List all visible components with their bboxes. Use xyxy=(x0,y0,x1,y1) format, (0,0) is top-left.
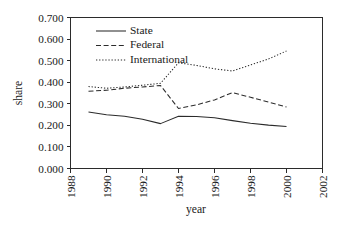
x-tick-label: 2002 xyxy=(317,176,329,198)
chart-figure: 0.0000.1000.2000.3000.4000.5000.6000.700… xyxy=(0,0,353,226)
x-tick-label: 1994 xyxy=(173,175,185,198)
y-tick-label: 0.000 xyxy=(38,163,64,175)
legend-label-federal: Federal xyxy=(130,38,164,50)
plot-frame xyxy=(71,18,323,169)
chart-legend: StateFederalInternational xyxy=(96,24,188,65)
x-tick-label: 1988 xyxy=(65,175,77,198)
y-tick-label: 0.600 xyxy=(38,33,64,45)
legend-label-state: State xyxy=(130,24,153,36)
series-line-state xyxy=(89,112,287,126)
y-tick-label: 0.700 xyxy=(38,12,64,24)
y-tick-label: 0.400 xyxy=(38,76,64,88)
y-tick-label: 0.100 xyxy=(38,141,64,153)
y-tick-label: 0.200 xyxy=(38,119,64,131)
y-axis-title: share xyxy=(12,81,25,105)
x-tick-label: 1998 xyxy=(245,175,257,198)
series-line-federal xyxy=(89,85,287,108)
x-tick-label: 1992 xyxy=(137,176,149,198)
x-tick-label: 2000 xyxy=(281,175,293,198)
x-axis-ticks: 19881990199219941996199820002002 xyxy=(65,169,329,198)
legend-label-international: International xyxy=(130,53,188,65)
x-axis-title: year xyxy=(186,203,206,216)
y-tick-label: 0.300 xyxy=(38,98,64,110)
line-chart: 0.0000.1000.2000.3000.4000.5000.6000.700… xyxy=(0,0,353,226)
x-tick-label: 1996 xyxy=(209,175,221,198)
y-axis-ticks: 0.0000.1000.2000.3000.4000.5000.6000.700 xyxy=(38,12,70,175)
x-tick-label: 1990 xyxy=(101,175,113,198)
y-tick-label: 0.500 xyxy=(38,55,64,67)
